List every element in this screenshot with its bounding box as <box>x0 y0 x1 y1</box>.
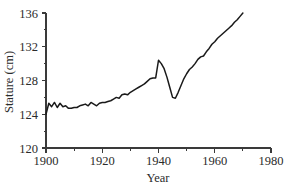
stature-line-chart: 120124128132136 19001920194019601980 Sta… <box>0 0 290 187</box>
y-tick-label: 128 <box>19 74 38 88</box>
y-tick-label: 132 <box>19 40 38 54</box>
x-tick-label: 1900 <box>34 154 59 168</box>
data-line-stature <box>46 13 243 114</box>
y-axis-tick-labels: 120124128132136 <box>19 7 39 156</box>
x-tick-label: 1940 <box>146 154 171 168</box>
x-tick-label: 1980 <box>259 154 284 168</box>
x-tick-label: 1960 <box>202 154 227 168</box>
y-tick-label: 124 <box>19 108 39 122</box>
x-tick-label: 1920 <box>90 154 115 168</box>
y-axis-major-ticks <box>42 13 47 148</box>
x-axis-title: Year <box>146 171 170 185</box>
x-axis-tick-labels: 19001920194019601980 <box>34 154 284 168</box>
y-tick-label: 136 <box>19 7 38 21</box>
y-axis-title: Stature (cm) <box>2 51 16 113</box>
x-axis-major-ticks <box>46 148 271 153</box>
chart-canvas: 120124128132136 19001920194019601980 Sta… <box>0 0 290 187</box>
